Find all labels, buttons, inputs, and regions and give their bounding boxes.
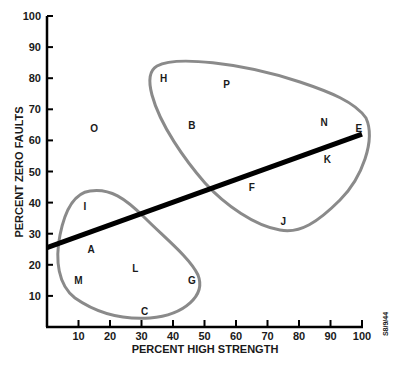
point-label: K xyxy=(324,154,332,165)
point-label: G xyxy=(188,275,196,286)
point-label: I xyxy=(83,201,86,212)
y-tick-label: 50 xyxy=(29,166,41,178)
y-tick-label: 90 xyxy=(29,41,41,53)
y-tick-label: 40 xyxy=(29,197,41,209)
x-tick-label: 100 xyxy=(353,330,371,342)
point-label: H xyxy=(160,73,167,84)
x-tick-label: 20 xyxy=(104,330,116,342)
point-label: J xyxy=(280,216,286,227)
x-tick-label: 60 xyxy=(230,330,242,342)
y-tick-label: 10 xyxy=(29,290,41,302)
y-tick-label: 100 xyxy=(23,10,41,22)
x-axis: 102030405060708090100 xyxy=(46,320,371,342)
scatter-chart: 102030405060708090100 102030405060708090… xyxy=(0,0,397,371)
x-tick-label: 90 xyxy=(324,330,336,342)
y-axis: 102030405060708090100 xyxy=(23,10,53,327)
x-axis-title: PERCENT HIGH STRENGTH xyxy=(132,343,279,355)
y-tick-label: 70 xyxy=(29,103,41,115)
point-label: L xyxy=(132,263,138,274)
point-label: A xyxy=(87,244,94,255)
x-tick-label: 70 xyxy=(261,330,273,342)
x-tick-label: 80 xyxy=(293,330,305,342)
point-label: F xyxy=(249,182,255,193)
figure-code-label: S8/9/44 xyxy=(382,312,389,336)
lower-cluster-outline xyxy=(58,190,200,318)
x-tick-label: 40 xyxy=(167,330,179,342)
point-label: M xyxy=(74,275,82,286)
y-tick-label: 30 xyxy=(29,228,41,240)
x-tick-label: 10 xyxy=(72,330,84,342)
point-label: N xyxy=(321,117,328,128)
point-label: C xyxy=(141,306,148,317)
point-label: E xyxy=(356,123,363,134)
point-label: O xyxy=(90,123,98,134)
y-tick-label: 80 xyxy=(29,72,41,84)
y-tick-label: 60 xyxy=(29,134,41,146)
x-tick-label: 50 xyxy=(198,330,210,342)
point-label: B xyxy=(188,120,195,131)
x-tick-label: 30 xyxy=(135,330,147,342)
y-axis-title: PERCENT ZERO FAULTS xyxy=(13,106,25,237)
y-tick-label: 20 xyxy=(29,259,41,271)
point-label: P xyxy=(223,79,230,90)
